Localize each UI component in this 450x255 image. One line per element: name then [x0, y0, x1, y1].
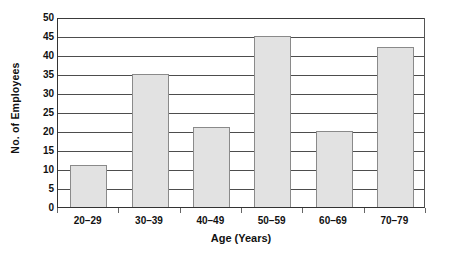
- x-axis-category-label: 60–69: [319, 215, 347, 226]
- y-axis-tick-label: 0: [28, 203, 54, 213]
- y-axis-tick-label: 30: [28, 89, 54, 99]
- x-axis-category-label: 70–79: [380, 215, 408, 226]
- y-axis-tick-label: 50: [28, 13, 54, 23]
- y-axis-tick-labels: 05101520253035404550: [28, 18, 54, 208]
- plot-area: [57, 18, 425, 208]
- x-axis-category-label: 40–49: [196, 215, 224, 226]
- y-axis-title-label: No. of Employees: [9, 62, 21, 153]
- x-axis-tick: [57, 208, 58, 213]
- y-axis-tick-label: 10: [28, 165, 54, 175]
- x-axis-tick: [425, 208, 426, 213]
- x-axis-category-label: 50–59: [258, 215, 286, 226]
- y-axis-title: No. of Employees: [0, 0, 30, 215]
- x-axis-category-label: 20–29: [74, 215, 102, 226]
- x-axis-tick: [118, 208, 119, 213]
- y-axis-tick-label: 25: [28, 108, 54, 118]
- y-axis-tick-label: 35: [28, 70, 54, 80]
- bar: [316, 131, 353, 207]
- bar: [377, 47, 414, 207]
- bar: [254, 36, 291, 207]
- bar: [132, 74, 169, 207]
- bar: [193, 127, 230, 207]
- x-axis-title: Age (Years): [57, 232, 425, 244]
- x-axis-category-label: 30–39: [135, 215, 163, 226]
- y-axis-tick-label: 20: [28, 127, 54, 137]
- x-axis-tick: [241, 208, 242, 213]
- y-axis-tick-label: 40: [28, 51, 54, 61]
- y-axis-tick-label: 5: [28, 184, 54, 194]
- bars-layer: [58, 18, 424, 207]
- y-axis-tick-label: 15: [28, 146, 54, 156]
- y-axis-tick-label: 45: [28, 32, 54, 42]
- bar-chart: No. of Employees 05101520253035404550 20…: [0, 0, 450, 255]
- bar: [70, 165, 107, 207]
- x-axis-tick: [302, 208, 303, 213]
- x-axis-tick: [180, 208, 181, 213]
- x-axis-tick: [364, 208, 365, 213]
